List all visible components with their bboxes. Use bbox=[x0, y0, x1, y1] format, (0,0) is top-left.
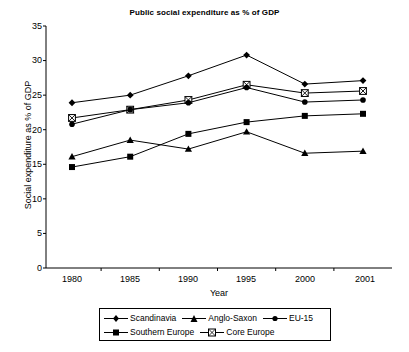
series-anglo-saxon bbox=[68, 128, 366, 159]
data-point bbox=[69, 115, 76, 122]
circle-marker-icon bbox=[263, 313, 287, 324]
chart-root: Public social expenditure as % of GDP So… bbox=[0, 0, 409, 352]
series-scandinavia bbox=[69, 52, 367, 107]
data-point bbox=[127, 136, 134, 142]
data-point bbox=[127, 107, 133, 113]
data-point bbox=[243, 52, 250, 59]
data-point bbox=[302, 113, 308, 119]
data-point bbox=[360, 97, 366, 103]
data-point bbox=[360, 111, 366, 117]
data-point bbox=[127, 92, 134, 99]
chart-legend: Scandinavia Anglo-Saxon EU-15 bbox=[99, 308, 331, 341]
legend-item-core-europe: Core Europe bbox=[200, 327, 274, 338]
legend-item-eu-15: EU-15 bbox=[263, 313, 313, 324]
data-point bbox=[185, 131, 191, 137]
data-point bbox=[69, 99, 76, 106]
series-layer bbox=[68, 52, 366, 170]
legend-label: EU-15 bbox=[289, 313, 313, 323]
data-point bbox=[302, 99, 308, 105]
legend-row: Scandinavia Anglo-Saxon EU-15 bbox=[104, 311, 319, 325]
legend-item-anglo-saxon: Anglo-Saxon bbox=[182, 313, 257, 324]
data-point bbox=[301, 81, 308, 88]
data-point bbox=[186, 100, 192, 106]
data-point bbox=[301, 90, 308, 97]
axes bbox=[43, 26, 392, 271]
legend-label: Scandinavia bbox=[130, 313, 176, 323]
data-point bbox=[243, 128, 250, 134]
legend-item-scandinavia: Scandinavia bbox=[104, 313, 176, 324]
triangle-marker-icon bbox=[182, 313, 206, 324]
legend-label: Core Europe bbox=[226, 327, 274, 337]
diamond-marker-icon bbox=[104, 313, 128, 324]
series-eu-15 bbox=[69, 85, 366, 127]
data-point bbox=[69, 164, 75, 170]
data-point bbox=[127, 154, 133, 160]
plot-area bbox=[0, 0, 409, 352]
legend-row: Southern Europe Core Europe bbox=[104, 325, 280, 339]
data-point bbox=[185, 72, 192, 79]
data-point bbox=[69, 121, 75, 127]
legend-label: Anglo-Saxon bbox=[208, 313, 257, 323]
data-point bbox=[360, 77, 367, 84]
data-point bbox=[244, 119, 250, 125]
crossed-square-marker-icon bbox=[200, 327, 224, 338]
data-point bbox=[244, 85, 250, 91]
legend-label: Southern Europe bbox=[130, 327, 194, 337]
square-marker-icon bbox=[104, 327, 128, 338]
legend-item-southern-europe: Southern Europe bbox=[104, 327, 194, 338]
data-point bbox=[360, 88, 367, 95]
